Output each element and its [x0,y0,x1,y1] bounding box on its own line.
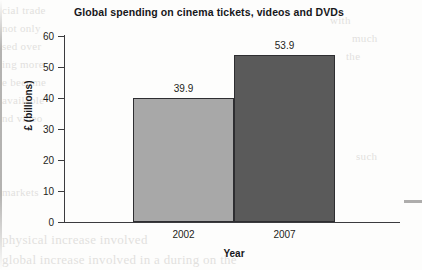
y-axis-tick-label: 40 [4,93,54,104]
scanned-page: cial trade not only sed over ing more e … [0,0,422,270]
x-axis-category-label: 2002 [133,229,234,240]
y-axis-tick-label: 30 [4,124,54,135]
x-axis-title: Year [133,248,335,259]
y-axis-tick-labels: 0102030405060 [0,0,54,270]
y-axis-tick [58,222,64,223]
x-axis-category-label: 2007 [234,229,335,240]
y-axis-tick-label: 60 [4,31,54,42]
bar-value-label: 53.9 [234,40,335,51]
y-axis-tick-label: 20 [4,155,54,166]
bar-value-label: 39.9 [133,83,234,94]
y-axis-tick-label: 50 [4,62,54,73]
bar [234,55,335,222]
y-axis-tick-label: 10 [4,186,54,197]
page-edge-artifact-right [404,200,422,203]
bar [133,98,234,222]
chart-title: Global spending on cinema tickets, video… [63,6,355,18]
x-axis-line [64,222,400,223]
plot-area [64,36,400,222]
y-axis-tick-label: 0 [4,217,54,228]
